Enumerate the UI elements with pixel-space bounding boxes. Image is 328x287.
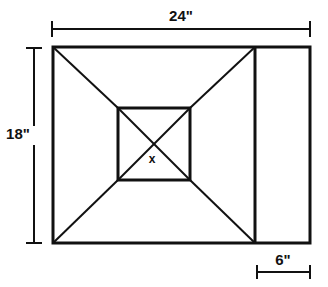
dimension-height-left: 18" bbox=[0, 48, 42, 243]
dimension-height-left-label: 18" bbox=[6, 125, 30, 142]
geometry-figure: 24" 18" x bbox=[0, 0, 328, 287]
dimension-strip-bottom: 6" bbox=[257, 251, 310, 279]
diagram-canvas: 24" 18" x bbox=[0, 0, 328, 287]
center-x-label: x bbox=[149, 152, 156, 166]
dimension-strip-bottom-label: 6" bbox=[275, 251, 290, 268]
dimension-width-top-label: 24" bbox=[169, 7, 193, 24]
dimension-width-top: 24" bbox=[52, 7, 310, 37]
